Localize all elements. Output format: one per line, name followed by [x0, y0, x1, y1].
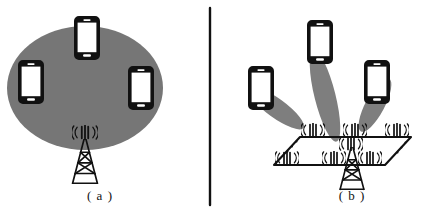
panel-b — [243, 21, 411, 190]
base-station-tower-a — [72, 126, 99, 184]
phone-right — [365, 61, 389, 103]
phone-right — [129, 67, 153, 109]
array-row-back — [301, 124, 410, 137]
base-station-tower-b — [340, 147, 364, 189]
panel-a-caption: ( a ) — [0, 188, 200, 204]
phone-top — [75, 17, 99, 59]
phone-left — [249, 67, 273, 109]
array-row-front — [275, 152, 383, 165]
array-antenna — [301, 124, 326, 137]
phone-left — [19, 61, 43, 103]
array-antenna — [385, 124, 410, 137]
array-ellipsis-right — [397, 142, 407, 154]
panel-b-caption: ( b ) — [252, 188, 424, 204]
figure-root — [0, 0, 424, 214]
array-antenna — [322, 152, 347, 165]
phone-center — [308, 21, 332, 63]
antenna-array-plane — [274, 124, 411, 165]
array-antenna — [358, 152, 383, 165]
array-antenna — [275, 152, 300, 165]
panel-a — [7, 17, 163, 183]
